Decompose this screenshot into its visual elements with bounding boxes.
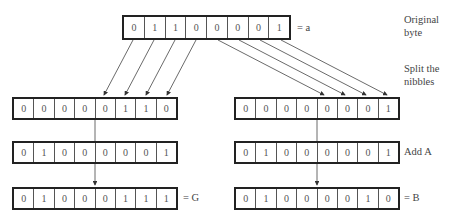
add-annotation: Add A: [404, 146, 432, 158]
bit-cell: 0: [54, 99, 74, 118]
original-suffix: = a: [297, 22, 310, 34]
bit-cell: 1: [115, 189, 135, 208]
bit-cell: 1: [144, 17, 165, 38]
bit-cell: 1: [255, 189, 275, 208]
bit-cell: 0: [14, 143, 33, 162]
bit-cell: 0: [227, 17, 248, 38]
bit-cell: 0: [185, 17, 206, 38]
split-left-arrows: [104, 40, 196, 95]
bit-cell: 0: [156, 99, 176, 118]
bit-cell: 1: [268, 17, 289, 38]
bit-cell: 1: [378, 99, 398, 118]
bit-cell: 1: [156, 143, 176, 162]
bit-cell: 0: [95, 143, 115, 162]
bit-cell: 0: [317, 189, 337, 208]
bit-cell: 1: [165, 17, 186, 38]
bit-cell: 0: [337, 99, 357, 118]
bit-cell: 0: [95, 99, 115, 118]
bit-cell: 0: [378, 189, 398, 208]
bit-cell: 1: [135, 189, 155, 208]
bit-cell: 0: [296, 99, 316, 118]
left-result-byte: 0 1 0 0 0 1 1 1: [12, 187, 178, 210]
split-right-arrows: [218, 40, 387, 95]
bit-cell: 0: [206, 17, 227, 38]
bit-cell: 0: [357, 143, 377, 162]
split-annotation-2: nibbles: [404, 76, 434, 88]
bit-cell: 0: [135, 143, 155, 162]
bit-cell: 0: [14, 189, 33, 208]
bit-cell: 1: [115, 99, 135, 118]
bit-cell: 0: [54, 143, 74, 162]
bit-cell: 0: [296, 189, 316, 208]
bit-cell: 0: [95, 189, 115, 208]
bit-cell: 0: [74, 143, 94, 162]
right-split-byte: 0 0 0 0 0 0 0 1: [234, 97, 400, 120]
bit-cell: 1: [255, 143, 275, 162]
bit-cell: 0: [74, 99, 94, 118]
bit-cell: 0: [33, 99, 53, 118]
right-addend-byte: 0 1 0 0 0 0 0 1: [234, 141, 400, 164]
bit-cell: 0: [54, 189, 74, 208]
bit-cell: 1: [33, 143, 53, 162]
left-result-suffix: = G: [183, 192, 199, 204]
bit-cell: 0: [236, 143, 255, 162]
bit-cell: 0: [248, 17, 269, 38]
left-addend-byte: 0 1 0 0 0 0 0 1: [12, 141, 178, 164]
bit-cell: 0: [14, 99, 33, 118]
bit-cell: 0: [74, 189, 94, 208]
split-annotation-1: Split the: [404, 63, 439, 75]
left-split-byte: 0 0 0 0 0 1 1 0: [12, 97, 178, 120]
bit-cell: 0: [296, 143, 316, 162]
bit-cell: 0: [115, 143, 135, 162]
bit-cell: 0: [255, 99, 275, 118]
bit-cell: 0: [357, 99, 377, 118]
bit-cell: 1: [156, 189, 176, 208]
bit-cell: 1: [135, 99, 155, 118]
bit-cell: 1: [33, 189, 53, 208]
right-result-suffix: = B: [404, 192, 420, 204]
original-byte: 0 1 1 0 0 0 0 1: [122, 15, 291, 40]
bit-cell: 0: [276, 189, 296, 208]
bit-cell: 0: [276, 99, 296, 118]
original-byte-annotation-2: byte: [404, 27, 422, 39]
bit-cell: 1: [357, 189, 377, 208]
right-result-byte: 0 1 0 0 0 0 1 0: [234, 187, 400, 210]
bit-cell: 0: [317, 143, 337, 162]
bit-cell: 0: [124, 17, 144, 38]
bit-cell: 0: [276, 143, 296, 162]
bit-cell: 0: [236, 99, 255, 118]
bit-cell: 1: [378, 143, 398, 162]
bit-cell: 0: [317, 99, 337, 118]
bit-cell: 0: [337, 143, 357, 162]
original-byte-annotation-1: Original: [404, 14, 439, 26]
bit-cell: 0: [337, 189, 357, 208]
bit-cell: 0: [236, 189, 255, 208]
